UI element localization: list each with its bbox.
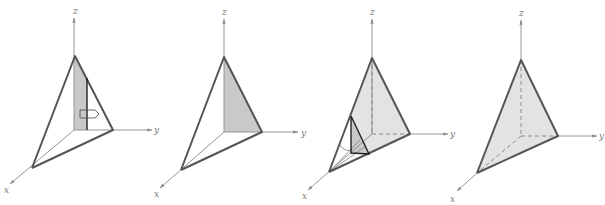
panel-4: z y x <box>450 8 605 204</box>
y-label: y <box>598 131 605 141</box>
y-label: y <box>153 125 160 135</box>
z-label: z <box>221 7 227 17</box>
panel-3: z y x <box>302 7 456 201</box>
x-label: x <box>154 189 159 199</box>
y-label: y <box>449 129 456 139</box>
z-label: z <box>72 6 78 16</box>
x-label: x <box>450 194 455 204</box>
x-axis <box>10 130 74 184</box>
tetrahedron-edges <box>32 56 113 168</box>
tetrahedron-figure: z y x z y x z y x <box>0 0 605 205</box>
x-axis <box>457 173 477 191</box>
panel-1: z y x <box>4 6 160 195</box>
shaded-tetrahedron <box>477 60 558 173</box>
panel-2: z y x <box>154 7 307 199</box>
y-label: y <box>300 128 307 138</box>
z-label: z <box>369 7 375 17</box>
x-label: x <box>302 191 307 201</box>
z-label: z <box>518 8 524 18</box>
fan-line <box>329 140 360 172</box>
x-label: x <box>4 185 9 195</box>
